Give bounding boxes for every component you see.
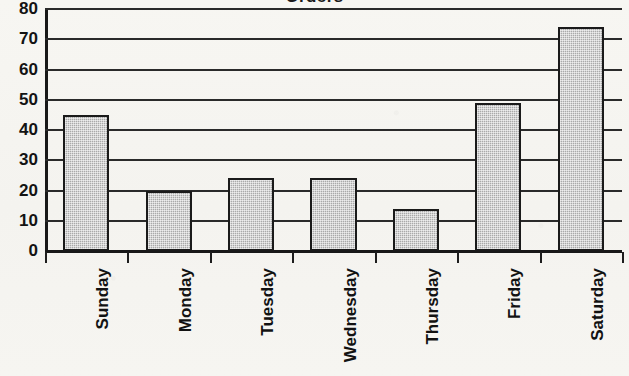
bar (146, 191, 192, 252)
plot-area (45, 9, 622, 251)
gridline (45, 69, 622, 71)
y-tick-label: 40 (0, 121, 38, 138)
x-tick-label: Friday (506, 268, 523, 319)
x-tick-label: Wednesday (342, 268, 359, 362)
chart-title: Orders (0, 0, 629, 7)
y-tick-label: 50 (0, 91, 38, 108)
x-tick-label: Monday (177, 268, 194, 332)
y-tick-label: 80 (0, 0, 38, 17)
x-tick (457, 252, 459, 263)
bar (63, 115, 109, 251)
x-tick (210, 252, 212, 263)
y-tick-label: 10 (0, 212, 38, 229)
bar (393, 209, 439, 251)
y-tick-label: 70 (0, 30, 38, 47)
bar (310, 178, 356, 251)
bar (228, 178, 274, 251)
x-tick (375, 252, 377, 263)
bar (475, 103, 521, 251)
x-tick (540, 252, 542, 263)
gridline (45, 159, 622, 161)
gridline (45, 99, 622, 101)
y-tick-label: 60 (0, 61, 38, 78)
x-tick-label: Tuesday (259, 268, 276, 336)
bar (558, 27, 604, 251)
bar-chart: Orders 01020304050607080 SundayMondayTue… (0, 0, 629, 376)
y-tick-label: 20 (0, 182, 38, 199)
x-tick-label: Sunday (94, 268, 111, 329)
y-tick-label: 30 (0, 151, 38, 168)
x-tick (45, 252, 47, 263)
gridline (45, 8, 622, 10)
gridline (45, 38, 622, 40)
x-tick (127, 252, 129, 263)
gridline (45, 129, 622, 131)
x-tick (622, 252, 624, 263)
x-tick (292, 252, 294, 263)
x-tick-label: Saturday (589, 268, 606, 341)
x-tick-label: Thursday (424, 268, 441, 345)
y-tick-label: 0 (0, 242, 38, 259)
